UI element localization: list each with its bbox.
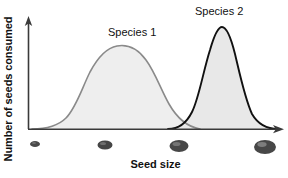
species-1-label: Species 1: [108, 26, 156, 38]
seed-largest-icon: [254, 140, 276, 154]
species-1-curve-area: [32, 46, 200, 129]
seed-large-icon: [170, 140, 189, 152]
seed-smallest-highlight: [32, 142, 36, 144]
species-2-curve-area: [168, 27, 278, 129]
seed-largest-highlight: [257, 142, 266, 147]
seed-icons-group: [30, 140, 276, 154]
seed-small-highlight: [100, 142, 106, 145]
seed-large-highlight: [173, 142, 181, 146]
figure-root: Number of seeds consumed Seed size Speci…: [0, 0, 288, 178]
species-2-label: Species 2: [195, 5, 243, 17]
seed-smallest-icon: [30, 141, 40, 147]
y-axis-title: Number of seeds consumed: [0, 0, 16, 178]
seed-small-icon: [98, 141, 113, 150]
x-axis-title: Seed size: [28, 158, 283, 170]
